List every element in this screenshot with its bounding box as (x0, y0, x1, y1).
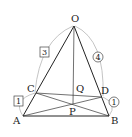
label-q: Q (76, 83, 84, 94)
ratio-db: 1 (112, 98, 117, 107)
label-d: D (101, 85, 109, 96)
label-p: P (69, 106, 76, 117)
label-o: O (71, 13, 79, 24)
arc-oc (35, 26, 73, 92)
label-a: A (12, 115, 21, 126)
label-b: B (111, 115, 118, 126)
ratio-oc: 3 (42, 48, 47, 57)
geometry-diagram: O A B C D Q P 3 1 4 1 (0, 0, 132, 137)
ratio-ca: 1 (16, 97, 21, 106)
segment-ad (23, 97, 102, 116)
label-c: C (27, 83, 35, 94)
segment-op (73, 26, 74, 104)
ratio-od: 4 (96, 53, 101, 62)
